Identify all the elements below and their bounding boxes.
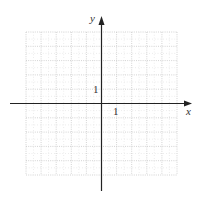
y-axis-arrow-icon (99, 16, 105, 25)
grid-svg (0, 0, 200, 200)
x-tick-label-1: 1 (113, 106, 119, 117)
coordinate-plane: y x 1 1 (0, 0, 200, 200)
y-tick-label-1: 1 (93, 84, 99, 95)
x-axis-label: x (186, 106, 191, 117)
y-axis-label: y (90, 13, 95, 24)
